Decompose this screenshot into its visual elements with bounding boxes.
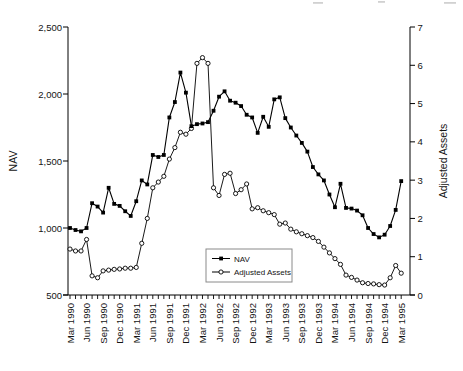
x-axis-tick-label: Mar 1995 — [396, 303, 407, 343]
adjusted-assets-data-marker — [167, 157, 171, 161]
adjusted-assets-data-marker — [300, 232, 304, 236]
adjusted-assets-data-marker — [272, 213, 276, 217]
nav-data-marker — [355, 209, 359, 213]
adjusted-assets-data-marker — [305, 234, 309, 238]
x-axis-tick-label: Sep 1994 — [363, 303, 374, 344]
adjusted-assets-data-marker — [327, 251, 331, 255]
x-axis-tick-label: Sep 1992 — [230, 303, 241, 344]
nav-data-marker — [123, 209, 127, 213]
nav-data-marker — [289, 126, 293, 130]
nav-data-marker — [90, 201, 94, 205]
right-axis-tick-label: 3 — [418, 175, 423, 186]
adjusted-assets-data-marker — [118, 267, 122, 271]
adjusted-assets-data-marker — [322, 245, 326, 249]
nav-data-marker — [190, 124, 194, 128]
x-axis-tick-label: Sep 1990 — [98, 303, 109, 344]
nav-data-marker — [350, 207, 354, 211]
adjusted-assets-data-marker — [222, 172, 226, 176]
adjusted-assets-data-marker — [123, 266, 127, 270]
adjusted-assets-data-marker — [134, 265, 138, 269]
nav-data-marker — [261, 115, 265, 119]
adjusted-assets-data-marker — [372, 282, 376, 286]
nav-data-marker — [195, 122, 199, 126]
x-axis-tick-label: Mar 1993 — [263, 303, 274, 343]
adjusted-assets-data-marker — [228, 171, 232, 175]
adjusted-assets-data-marker — [383, 283, 387, 287]
nav-data-marker — [388, 224, 392, 228]
nav-data-marker — [151, 153, 155, 157]
chart-canvas: 5001,0001,5002,0002,50001234567Mar 1990J… — [0, 0, 463, 371]
nav-data-marker — [228, 99, 232, 103]
adjusted-assets-data-marker — [90, 274, 94, 278]
adjusted-assets-data-marker — [399, 271, 403, 275]
nav-data-marker — [305, 150, 309, 154]
adjusted-assets-data-marker — [173, 146, 177, 150]
nav-data-marker — [74, 228, 78, 232]
nav-data-marker — [234, 101, 238, 105]
right-axis-tick-label: 0 — [418, 290, 423, 301]
adjusted-assets-data-marker — [96, 276, 100, 280]
nav-data-marker — [399, 179, 403, 183]
nav-data-marker — [156, 155, 160, 159]
adjusted-assets-data-marker — [145, 216, 149, 220]
x-axis-tick-label: Dec 1992 — [247, 303, 258, 344]
adjusted-assets-data-marker — [79, 249, 83, 253]
legend-label-nav: NAV — [234, 255, 251, 264]
adjusted-assets-data-marker — [316, 239, 320, 243]
nav-data-marker — [107, 186, 111, 190]
nav-data-marker — [145, 183, 149, 187]
nav-data-marker — [283, 116, 287, 120]
adjusted-assets-data-marker — [311, 235, 315, 239]
adjusted-assets-data-marker — [267, 211, 271, 215]
nav-data-marker — [366, 226, 370, 230]
adjusted-assets-data-marker — [184, 132, 188, 136]
nav-data-marker — [167, 116, 171, 120]
adjusted-assets-data-marker — [217, 193, 221, 197]
legend-label-adjusted-assets: Adjusted Assets — [234, 268, 291, 277]
right-axis-tick-label: 7 — [418, 22, 423, 33]
adjusted-assets-data-marker — [200, 56, 204, 60]
x-axis-tick-label: Dec 1994 — [379, 303, 390, 344]
nav-data-marker — [372, 232, 376, 236]
nav-data-marker — [179, 71, 183, 75]
adjusted-assets-data-marker — [394, 263, 398, 267]
cropped-text-artifact — [378, 1, 385, 3]
adjusted-assets-data-marker — [278, 222, 282, 226]
nav-adjusted-assets-chart: 5001,0001,5002,0002,50001234567Mar 1990J… — [0, 0, 463, 371]
right-axis-tick-label: 2 — [418, 213, 423, 224]
x-axis-tick-label: Jun 1991 — [147, 303, 158, 342]
adjusted-assets-data-marker — [261, 209, 265, 213]
nav-data-marker — [201, 122, 205, 126]
left-axis-title: NAV — [7, 151, 19, 172]
adjusted-assets-data-marker — [289, 227, 293, 231]
nav-data-marker — [173, 100, 177, 104]
nav-data-marker — [322, 179, 326, 183]
nav-data-marker — [239, 104, 243, 108]
adjusted-assets-data-marker — [283, 221, 287, 225]
x-axis-tick-label: Dec 1990 — [114, 303, 125, 344]
adjusted-assets-data-marker — [156, 180, 160, 184]
nav-data-marker — [250, 116, 254, 120]
x-axis-tick-label: Jun 1993 — [280, 303, 291, 342]
nav-data-marker — [245, 113, 249, 117]
nav-data-marker — [96, 205, 100, 209]
adjusted-assets-data-marker — [388, 276, 392, 280]
adjusted-assets-data-marker — [355, 278, 359, 282]
adjusted-assets-data-marker — [245, 182, 249, 186]
left-axis-tick-label: 2,500 — [38, 22, 62, 33]
nav-data-marker — [311, 165, 315, 169]
x-axis-tick-label: Mar 1991 — [131, 303, 142, 343]
adjusted-assets-data-marker — [151, 186, 155, 190]
adjusted-assets-data-marker — [294, 230, 298, 234]
adjusted-assets-data-marker — [129, 266, 133, 270]
adjusted-assets-data-marker — [84, 237, 88, 241]
adjusted-assets-data-marker — [178, 130, 182, 134]
nav-data-marker — [267, 125, 271, 129]
nav-series-line — [70, 73, 401, 238]
adjusted-assets-data-marker — [366, 281, 370, 285]
nav-data-marker — [333, 205, 337, 209]
x-axis-tick-label: Jun 1992 — [214, 303, 225, 342]
right-axis-tick-label: 5 — [418, 98, 423, 109]
adjusted-assets-data-marker — [195, 61, 199, 65]
right-axis-tick-label: 4 — [418, 136, 423, 147]
